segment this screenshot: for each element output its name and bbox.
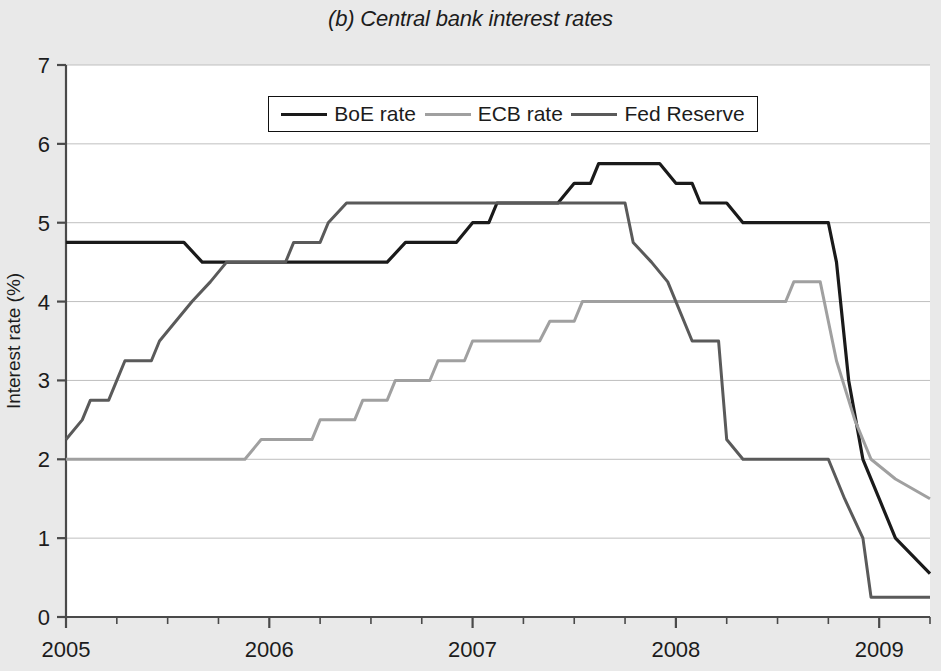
- y-tick-label: 2: [38, 447, 50, 472]
- y-tick-label: 5: [38, 211, 50, 236]
- legend-item-boe: BoE rate: [281, 102, 416, 126]
- legend-swatch-fed: [571, 113, 617, 116]
- legend-item-ecb: ECB rate: [425, 102, 563, 126]
- x-tick-label: 2007: [448, 637, 497, 662]
- legend-swatch-boe: [281, 113, 327, 116]
- legend-label-boe: BoE rate: [334, 102, 416, 126]
- y-tick-label: 7: [38, 53, 50, 78]
- legend-label-fed: Fed Reserve: [624, 102, 744, 126]
- chart-legend: BoE rate ECB rate Fed Reserve: [268, 96, 758, 132]
- y-tick-label: 3: [38, 368, 50, 393]
- legend-swatch-ecb: [425, 113, 471, 116]
- legend-label-ecb: ECB rate: [478, 102, 563, 126]
- y-tick-label: 0: [38, 605, 50, 630]
- y-tick-label: 4: [38, 290, 50, 315]
- x-tick-label: 2008: [651, 637, 700, 662]
- legend-item-fed: Fed Reserve: [571, 102, 744, 126]
- y-tick-label: 6: [38, 132, 50, 157]
- figure: (b) Central bank interest rates 01234567…: [0, 0, 941, 671]
- x-tick-label: 2005: [42, 637, 91, 662]
- x-tick-label: 2006: [245, 637, 294, 662]
- y-tick-label: 1: [38, 526, 50, 551]
- y-axis-label: Interest rate (%): [3, 273, 24, 409]
- x-tick-label: 2009: [855, 637, 904, 662]
